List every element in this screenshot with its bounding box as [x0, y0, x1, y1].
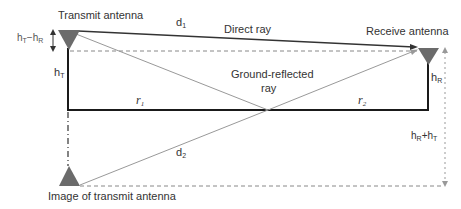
r1-label: r1 — [136, 93, 144, 108]
d2-label: d2 — [176, 146, 186, 159]
reflected-ray-outgoing — [268, 51, 414, 110]
hr-plus-ht-label: hR+hT — [411, 130, 437, 142]
arrow-up-icon — [50, 29, 56, 35]
image-antenna-label: Image of transmit antenna — [48, 190, 176, 202]
image-antenna-icon — [59, 166, 80, 186]
r2-label: r2 — [358, 93, 366, 108]
arrow-down-icon — [442, 181, 448, 187]
transmit-antenna-label: Transmit antenna — [58, 9, 143, 21]
ht-minus-hr-label: hT−hR — [17, 32, 43, 44]
receive-antenna-label: Receive antenna — [366, 25, 449, 37]
arrow-right-icon — [410, 50, 418, 56]
arrow-up-icon — [442, 47, 448, 53]
receive-antenna-icon — [418, 48, 439, 65]
arrow-down-icon — [50, 46, 56, 52]
d1-label: d1 — [176, 16, 186, 29]
hr-label: hR — [431, 71, 442, 84]
direct-ray-label: Direct ray — [224, 23, 271, 35]
ht-label: hT — [54, 66, 64, 79]
transmit-antenna-icon — [58, 30, 80, 50]
ground-reflected-label: Ground-reflected — [231, 68, 314, 80]
image-ray-d2 — [80, 110, 268, 185]
arrow-right-icon — [410, 44, 418, 50]
ground-reflected-label-2: ray — [261, 82, 276, 94]
